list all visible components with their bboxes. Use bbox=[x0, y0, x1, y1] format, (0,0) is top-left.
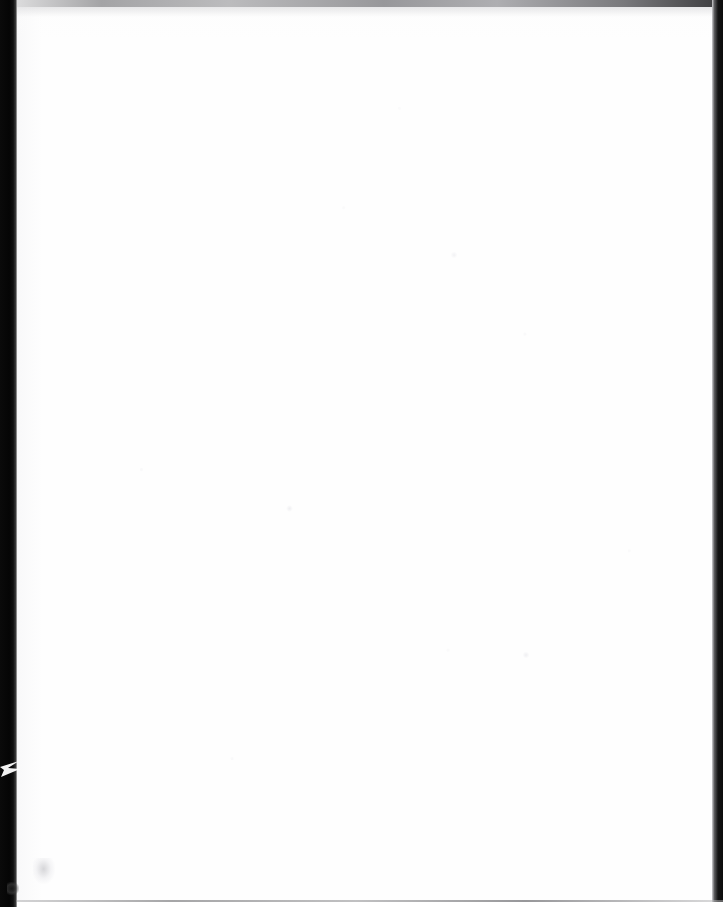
top-scan-edge-fade bbox=[17, 7, 723, 17]
right-scan-edge bbox=[712, 0, 723, 907]
top-scan-edge bbox=[17, 0, 723, 7]
left-binding-shadow bbox=[0, 0, 17, 907]
scanned-page-canvas bbox=[0, 0, 723, 907]
bottom-margin-strip bbox=[17, 902, 723, 907]
page-sheet bbox=[16, 0, 713, 903]
